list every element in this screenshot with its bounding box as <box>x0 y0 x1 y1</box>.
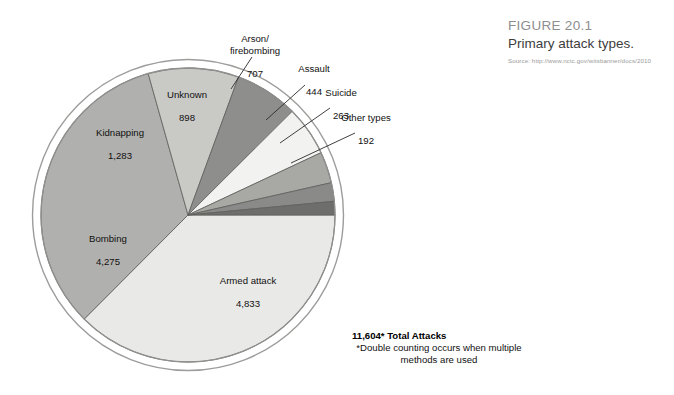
slice-label-armed-attack-value: 4,833 <box>236 298 260 309</box>
slice-label-kidnapping-value: 1,283 <box>108 150 132 161</box>
slice-label-other-types: Other types 192 <box>328 101 404 147</box>
slice-label-other-types-name: Other types <box>341 112 391 123</box>
figure-page: Unknown 898 Kidnapping 1,283 Bombing 4,2… <box>0 0 674 395</box>
slice-label-kidnapping: Kidnapping 1,283 <box>78 116 162 162</box>
slice-label-armed-attack: Armed attack 4,833 <box>196 264 300 310</box>
figure-source: Source: http://www.nctc.gov/witsbanner/d… <box>508 57 672 65</box>
slice-label-kidnapping-name: Kidnapping <box>96 127 144 138</box>
figure-number: FIGURE 20.1 <box>508 18 672 34</box>
slice-label-arson-value: 707 <box>247 68 263 79</box>
slice-label-bombing-name: Bombing <box>89 233 127 244</box>
slice-label-armed-attack-name: Armed attack <box>220 275 277 286</box>
figure-title: Primary attack types. <box>508 35 672 52</box>
total-attacks-block: 11,604* Total Attacks *Double counting o… <box>352 330 542 366</box>
slice-label-suicide-name: Suicide <box>325 87 356 98</box>
slice-label-unknown-name: Unknown <box>167 89 207 100</box>
figure-caption: FIGURE 20.1 Primary attack types. Source… <box>508 18 672 65</box>
pie-chart: Unknown 898 Kidnapping 1,283 Bombing 4,2… <box>0 0 400 395</box>
total-attacks-footnote: *Double counting occurs when multiple me… <box>354 342 524 366</box>
slice-label-unknown-value: 898 <box>179 112 195 123</box>
slice-label-other-types-value: 192 <box>358 135 374 146</box>
slice-label-bombing-value: 4,275 <box>96 256 120 267</box>
slice-label-assault-name: Assault <box>298 63 329 74</box>
slice-label-arson-name: Arson/ firebombing <box>230 33 280 55</box>
slice-label-bombing: Bombing 4,275 <box>66 222 150 268</box>
total-attacks-headline: 11,604* Total Attacks <box>352 330 542 342</box>
